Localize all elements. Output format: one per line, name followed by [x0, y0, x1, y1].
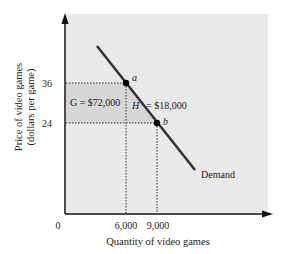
point-a-marker	[123, 80, 129, 86]
point-b-label: b	[163, 116, 168, 127]
y-axis-title: Price of video games (dollars per game)	[13, 63, 37, 151]
y-tick-36: 36	[42, 78, 52, 89]
x-tick-0: 0	[56, 220, 61, 231]
y-tick-24: 24	[42, 118, 52, 129]
demand-label: Demand	[201, 169, 235, 180]
y-axis-title-line1: Price of video games	[13, 63, 24, 151]
g-area-label: G = $72,000	[70, 97, 120, 108]
point-a-label: a	[132, 72, 137, 83]
x-tick-6000: 6,000	[115, 220, 138, 231]
demand-chart: a b G = $72,000 H = $18,000 Demand 36 24…	[0, 0, 282, 254]
x-tick-9000: 9,000	[147, 220, 170, 231]
point-b-marker	[154, 120, 160, 126]
x-axis-title: Quantity of video games	[106, 236, 210, 247]
h-area-label: H	[131, 100, 140, 111]
y-axis-title-line2: (dollars per game)	[25, 68, 37, 145]
h-value-label: = $18,000	[146, 100, 187, 111]
